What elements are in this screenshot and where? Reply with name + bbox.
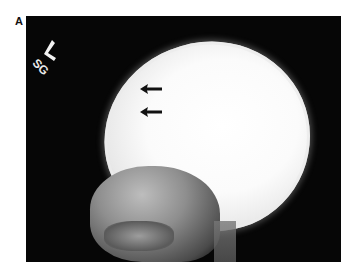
arrow-left-icon bbox=[140, 84, 162, 94]
xray-image: SG bbox=[26, 16, 341, 262]
mandible bbox=[104, 221, 174, 251]
cervical-spine bbox=[214, 221, 236, 262]
l-marker-icon bbox=[42, 40, 58, 62]
arrow-left-icon bbox=[140, 107, 162, 117]
panel-label: A bbox=[15, 15, 23, 27]
